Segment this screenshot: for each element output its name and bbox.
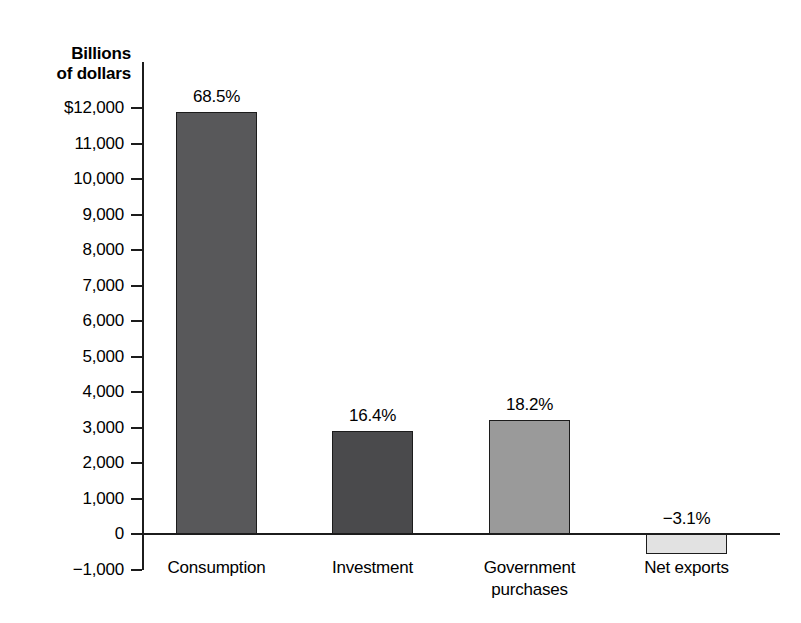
- y-axis-tick-mark: [131, 285, 142, 287]
- bar: [646, 534, 727, 554]
- y-axis-tick-mark: [131, 427, 142, 429]
- y-axis-tick-label: 0: [0, 525, 124, 542]
- y-axis-tick-mark: [131, 356, 142, 358]
- y-axis-line: [142, 62, 144, 570]
- y-axis-title-line-1: Billions: [0, 44, 131, 64]
- x-axis-category-label-line: Net exports: [591, 557, 782, 579]
- bar-value-label: 16.4%: [302, 407, 443, 424]
- y-axis-tick-label: −1,000: [0, 561, 124, 578]
- y-axis-tick-label: $12,000: [0, 99, 124, 116]
- bar: [176, 112, 257, 534]
- x-axis-category-label-line: purchases: [434, 579, 625, 601]
- bar-value-label: 18.2%: [459, 396, 600, 413]
- y-axis-tick-mark: [131, 249, 142, 251]
- x-axis-category-label: Net exports: [591, 557, 782, 579]
- bar: [332, 431, 413, 534]
- y-axis-tick-label: 4,000: [0, 383, 124, 400]
- y-axis-title-line-2: of dollars: [0, 64, 131, 84]
- y-axis-tick-label: 6,000: [0, 312, 124, 329]
- y-axis-tick-label: 7,000: [0, 277, 124, 294]
- y-axis-tick-mark: [131, 498, 142, 500]
- y-axis-tick-label: 11,000: [0, 135, 124, 152]
- y-axis-tick-mark: [131, 320, 142, 322]
- y-axis-tick-mark: [131, 533, 142, 535]
- y-axis-tick-mark: [131, 462, 142, 464]
- bar-value-label: −3.1%: [616, 510, 757, 527]
- y-axis-tick-mark: [131, 107, 142, 109]
- bar-value-label: 68.5%: [146, 88, 287, 105]
- y-axis-tick-mark: [131, 214, 142, 216]
- y-axis-tick-label: 8,000: [0, 241, 124, 258]
- y-axis-title: Billions of dollars: [0, 44, 131, 84]
- y-axis-tick-mark: [131, 178, 142, 180]
- y-axis-tick-label: 2,000: [0, 454, 124, 471]
- y-axis-tick-mark: [131, 391, 142, 393]
- y-axis-tick-label: 9,000: [0, 206, 124, 223]
- y-axis-tick-label: 3,000: [0, 419, 124, 436]
- gdp-components-bar-chart: Billions of dollars $12,00011,00010,0009…: [0, 0, 801, 623]
- y-axis-tick-label: 10,000: [0, 170, 124, 187]
- y-axis-tick-mark: [131, 143, 142, 145]
- y-axis-tick-label: 5,000: [0, 348, 124, 365]
- bar: [489, 420, 570, 534]
- y-axis-tick-label: 1,000: [0, 490, 124, 507]
